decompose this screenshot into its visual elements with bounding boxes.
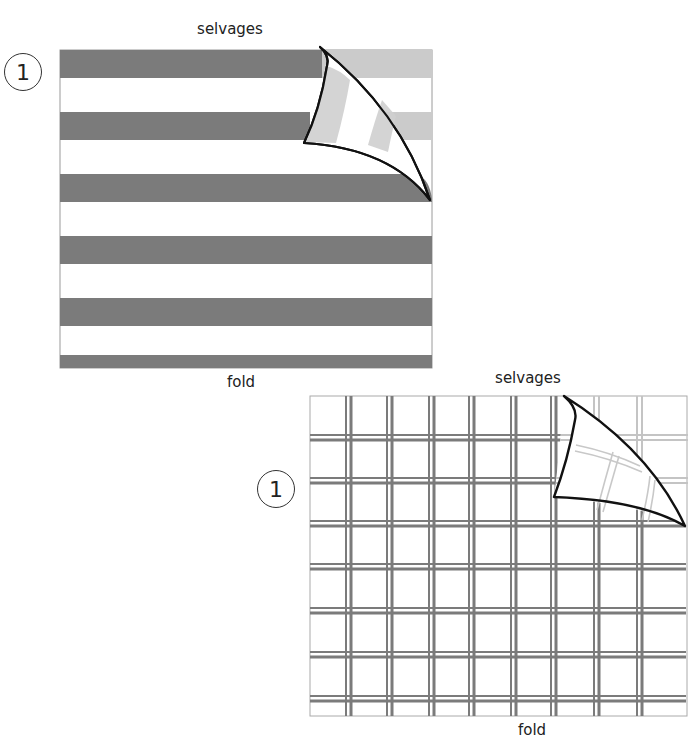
- plaid-fabric-illustration: [0, 0, 698, 742]
- fold-label: fold: [518, 721, 546, 739]
